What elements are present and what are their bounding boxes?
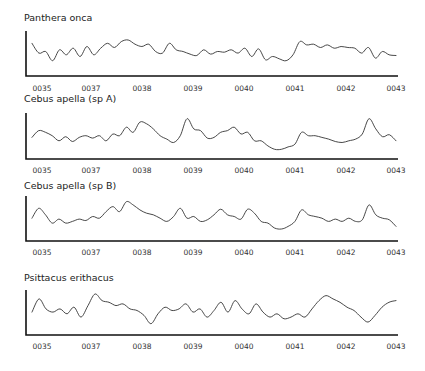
x-tick-label: 0043 <box>386 166 405 175</box>
axis-lines <box>26 196 398 241</box>
chart-panel: Panthera onca003500370038003900400041004… <box>24 12 406 93</box>
series-line <box>32 294 396 324</box>
x-tick-label: 0038 <box>132 166 151 175</box>
x-tick-label: 0035 <box>32 248 51 257</box>
x-tick-label: 0039 <box>183 84 202 93</box>
x-tick-label: 0039 <box>183 248 202 257</box>
x-tick-label: 0040 <box>234 248 253 257</box>
x-tick-label: 0035 <box>32 166 51 175</box>
x-tick-label: 0035 <box>32 84 51 93</box>
x-tick-label: 0035 <box>32 342 51 351</box>
series-line <box>32 119 396 150</box>
panel-title: Cebus apella (sp A) <box>24 93 116 104</box>
panel-title: Panthera onca <box>24 12 92 23</box>
x-tick-label: 0037 <box>81 166 100 175</box>
chart-panel: Psittacus erithacus003500370038003900400… <box>24 272 406 351</box>
x-tick-label: 0041 <box>285 248 304 257</box>
series-line <box>32 40 396 61</box>
x-tick-label: 0043 <box>386 342 405 351</box>
x-tick-label: 0041 <box>285 342 304 351</box>
chart-panel: Cebus apella (sp B)003500370038003900400… <box>24 180 406 257</box>
x-tick-label: 0043 <box>386 248 405 257</box>
x-tick-label: 0040 <box>234 84 253 93</box>
x-tick-label: 0039 <box>183 342 202 351</box>
x-tick-label: 0038 <box>132 248 151 257</box>
x-tick-label: 0040 <box>234 342 253 351</box>
panel-title: Cebus apella (sp B) <box>24 180 116 191</box>
x-tick-label: 0040 <box>234 166 253 175</box>
series-line <box>32 201 396 229</box>
x-tick-label: 0037 <box>81 342 100 351</box>
x-tick-label: 0037 <box>81 248 100 257</box>
x-tick-label: 0042 <box>336 84 355 93</box>
stacked-line-charts: Panthera onca003500370038003900400041004… <box>0 0 425 371</box>
x-tick-label: 0042 <box>336 166 355 175</box>
x-tick-label: 0038 <box>132 342 151 351</box>
x-tick-label: 0042 <box>336 342 355 351</box>
x-tick-label: 0039 <box>183 166 202 175</box>
x-tick-label: 0038 <box>132 84 151 93</box>
x-tick-label: 0043 <box>386 84 405 93</box>
x-tick-label: 0042 <box>336 248 355 257</box>
chart-panel: Cebus apella (sp A)003500370038003900400… <box>24 93 406 175</box>
x-tick-label: 0041 <box>285 166 304 175</box>
x-tick-label: 0037 <box>81 84 100 93</box>
x-tick-label: 0041 <box>285 84 304 93</box>
panel-title: Psittacus erithacus <box>24 272 114 283</box>
